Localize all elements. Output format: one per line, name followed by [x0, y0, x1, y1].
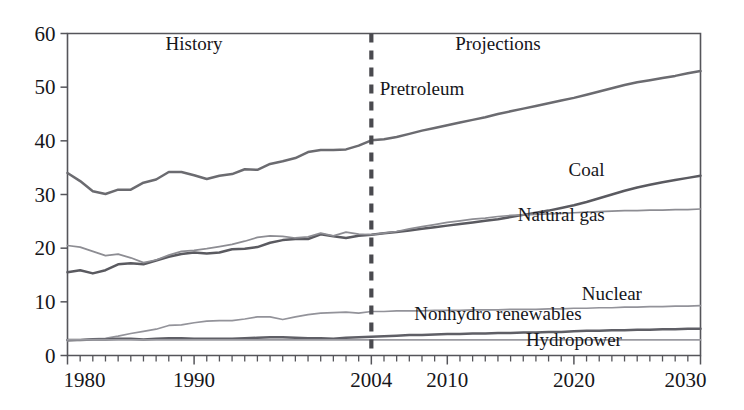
x-axis-ticks	[68, 356, 701, 365]
region-label-history: History	[166, 33, 224, 54]
series-line-natural-gas	[68, 209, 701, 263]
x-tick-label-2004: 2004	[350, 368, 393, 392]
y-tick-label-60: 60	[35, 22, 56, 46]
series-label-hydropower: Hydropower	[526, 329, 623, 350]
y-tick-label-50: 50	[35, 75, 56, 99]
series-inline-labels: PretroleumCoalNatural gasNuclearNonhydro…	[380, 78, 643, 350]
y-tick-label-10: 10	[35, 290, 56, 314]
line-chart: 0102030405060 198019902004201020202030 H…	[0, 0, 744, 410]
series-label-pretroleum: Pretroleum	[380, 78, 465, 99]
series-label-natural-gas: Natural gas	[518, 204, 605, 225]
x-axis-tick-labels: 198019902004201020202030	[64, 368, 707, 392]
series-label-coal: Coal	[569, 159, 605, 180]
series-label-nonhydro-renewables: Nonhydro renewables	[414, 303, 581, 324]
x-tick-label-2010: 2010	[426, 368, 468, 392]
y-axis-tick-labels: 0102030405060	[35, 22, 56, 368]
y-tick-label-30: 30	[35, 183, 56, 207]
x-tick-label-2030: 2030	[665, 368, 707, 392]
x-tick-label-1990: 1990	[173, 368, 215, 392]
y-axis-ticks	[61, 34, 68, 356]
y-tick-label-40: 40	[35, 129, 56, 153]
x-tick-label-1980: 1980	[64, 368, 106, 392]
region-label-projections: Projections	[455, 33, 541, 54]
y-tick-label-20: 20	[35, 236, 56, 260]
x-tick-label-2020: 2020	[553, 368, 595, 392]
region-annotations: HistoryProjections	[166, 33, 541, 54]
series-line-coal	[68, 176, 701, 274]
series-label-nuclear: Nuclear	[582, 283, 643, 304]
y-tick-label-0: 0	[45, 344, 56, 368]
chart-container: 0102030405060 198019902004201020202030 H…	[0, 0, 744, 410]
